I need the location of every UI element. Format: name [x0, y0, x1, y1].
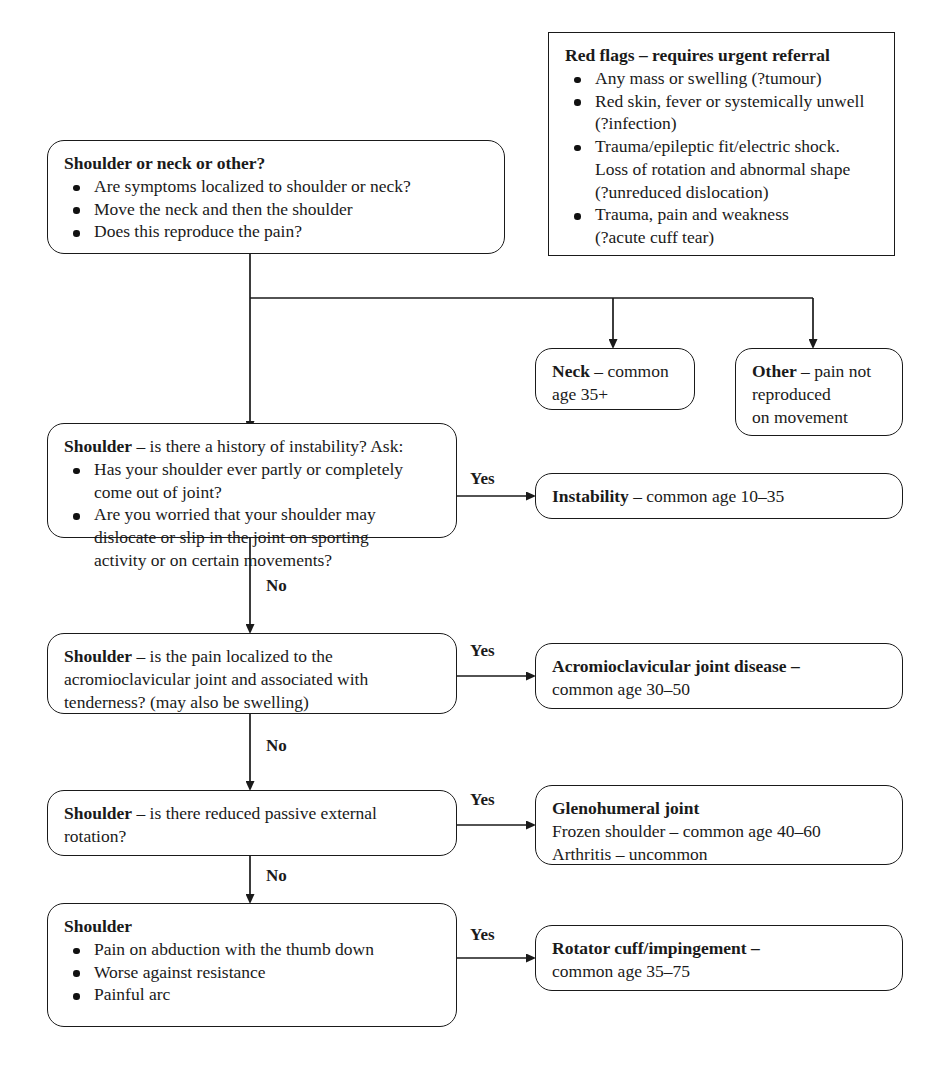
triage-question-box: Shoulder or neck or other? Are symptoms …	[47, 140, 505, 254]
neck-bold: Neck	[552, 361, 590, 381]
list-item: Trauma, pain and weakness (?acute cuff t…	[565, 203, 880, 249]
neck-line2: age 35+	[552, 383, 680, 406]
triage-item-0: Are symptoms localized to shoulder or ne…	[94, 175, 490, 198]
acj-line3: tenderness? (may also be swelling)	[64, 691, 442, 714]
gh-line1: Shoulder – is there reduced passive exte…	[64, 802, 442, 825]
triage-item-2: Does this reproduce the pain?	[94, 220, 490, 243]
list-item: Worse against resistance	[64, 961, 442, 984]
gh-result-line3: Arthritis – uncommon	[552, 843, 888, 866]
red-flag-3-line2: (?acute cuff tear)	[595, 226, 880, 249]
edge-label-no-acromioclavicular: No	[266, 736, 287, 756]
neck-line1: Neck – common	[552, 360, 680, 383]
neck-rest: – common	[590, 361, 669, 381]
acj-line2: acromioclavicular joint and associated w…	[64, 668, 442, 691]
instability-item-1-line1: Are you worried that your shoulder may	[94, 503, 442, 526]
acj-line1: Shoulder – is the pain localized to the	[64, 645, 442, 668]
instability-item-0-line2: come out of joint?	[94, 481, 442, 504]
red-flag-0-line1: Any mass or swelling (?tumour)	[595, 67, 880, 90]
instability-item-1-line2: dislocate or slip in the joint on sporti…	[94, 526, 442, 549]
triage-heading: Shoulder or neck or other?	[64, 152, 490, 175]
list-item: Red skin, fever or systemically unwell (…	[565, 90, 880, 136]
gh-bold: Shoulder	[64, 803, 132, 823]
instability-item-0-line1: Has your shoulder ever partly or complet…	[94, 458, 442, 481]
list-item: Has your shoulder ever partly or complet…	[64, 458, 442, 504]
red-flag-2-line3: (?unreduced dislocation)	[595, 181, 880, 204]
list-item: Are you worried that your shoulder may d…	[64, 503, 442, 571]
glenohumeral-result-box: Glenohumeral joint Frozen shoulder – com…	[535, 785, 903, 865]
acj-rest: – is the pain localized to the	[132, 646, 333, 666]
red-flag-2-line1: Trauma/epileptic fit/electric shock.	[595, 135, 880, 158]
triage-item-1: Move the neck and then the shoulder	[94, 198, 490, 221]
edge-label-no-glenohumeral: No	[266, 866, 287, 886]
instability-heading: Shoulder – is there a history of instabi…	[64, 435, 442, 458]
list-item: Does this reproduce the pain?	[64, 220, 490, 243]
instability-item-1-line3: activity or on certain movements?	[94, 549, 442, 572]
rotator-cuff-question-box: Shoulder Pain on abduction with the thum…	[47, 903, 457, 1027]
gh-line2: rotation?	[64, 825, 442, 848]
instability-list: Has your shoulder ever partly or complet…	[64, 458, 442, 572]
cuff-result-line1: Rotator cuff/impingement –	[552, 937, 888, 960]
gh-rest: – is there reduced passive external	[132, 803, 377, 823]
cuff-item-1: Worse against resistance	[94, 961, 442, 984]
glenohumeral-question-box: Shoulder – is there reduced passive exte…	[47, 790, 457, 856]
acj-bold: Shoulder	[64, 646, 132, 666]
cuff-list: Pain on abduction with the thumb down Wo…	[64, 938, 442, 1006]
edge-label-yes-glenohumeral: Yes	[470, 790, 495, 810]
gh-result-line2: Frozen shoulder – common age 40–60	[552, 820, 888, 843]
list-item: Trauma/epileptic fit/electric shock. Los…	[565, 135, 880, 203]
other-bold: Other	[752, 361, 797, 381]
instability-bold: Shoulder	[64, 436, 132, 456]
instability-question-box: Shoulder – is there a history of instabi…	[47, 423, 457, 538]
triage-list: Are symptoms localized to shoulder or ne…	[64, 175, 490, 243]
instability-result-line: Instability – common age 10–35	[552, 485, 888, 508]
gh-result-line1: Glenohumeral joint	[552, 797, 888, 820]
list-item: Are symptoms localized to shoulder or ne…	[64, 175, 490, 198]
cuff-result-line2: common age 35–75	[552, 960, 888, 983]
red-flag-1-line2: (?infection)	[595, 112, 880, 135]
other-rest: – pain not	[797, 361, 871, 381]
neck-outcome-box: Neck – common age 35+	[535, 348, 695, 410]
red-flags-box: Red flags – requires urgent referral Any…	[548, 32, 895, 256]
instability-result-box: Instability – common age 10–35	[535, 473, 903, 519]
cuff-item-0: Pain on abduction with the thumb down	[94, 938, 442, 961]
list-item: Pain on abduction with the thumb down	[64, 938, 442, 961]
rotator-cuff-result-box: Rotator cuff/impingement – common age 35…	[535, 925, 903, 991]
list-item: Painful arc	[64, 983, 442, 1006]
cuff-item-2: Painful arc	[94, 983, 442, 1006]
other-line3: on movement	[752, 406, 888, 429]
edge-label-yes-acromioclavicular: Yes	[470, 641, 495, 661]
other-line2: reproduced	[752, 383, 888, 406]
acromioclavicular-result-box: Acromioclavicular joint disease – common…	[535, 643, 903, 709]
red-flag-3-line1: Trauma, pain and weakness	[595, 203, 880, 226]
acromioclavicular-question-box: Shoulder – is the pain localized to the …	[47, 633, 457, 714]
other-outcome-box: Other – pain not reproduced on movement	[735, 348, 903, 436]
red-flags-list: Any mass or swelling (?tumour) Red skin,…	[565, 67, 880, 249]
edge-label-yes-rotator-cuff: Yes	[470, 925, 495, 945]
instability-result-rest: – common age 10–35	[629, 486, 785, 506]
red-flag-2-line2: Loss of rotation and abnormal shape	[595, 158, 880, 181]
acj-result-line2: common age 30–50	[552, 678, 888, 701]
acj-result-line1: Acromioclavicular joint disease –	[552, 655, 888, 678]
other-line1: Other – pain not	[752, 360, 888, 383]
flowchart-canvas: Red flags – requires urgent referral Any…	[0, 0, 947, 1072]
edge-label-no-instability: No	[266, 576, 287, 596]
instability-result-bold: Instability	[552, 486, 629, 506]
list-item: Move the neck and then the shoulder	[64, 198, 490, 221]
cuff-heading: Shoulder	[64, 915, 442, 938]
edge-label-yes-instability: Yes	[470, 469, 495, 489]
instability-rest: – is there a history of instability? Ask…	[132, 436, 403, 456]
red-flags-heading: Red flags – requires urgent referral	[565, 44, 880, 67]
red-flag-1-line1: Red skin, fever or systemically unwell	[595, 90, 880, 113]
list-item: Any mass or swelling (?tumour)	[565, 67, 880, 90]
